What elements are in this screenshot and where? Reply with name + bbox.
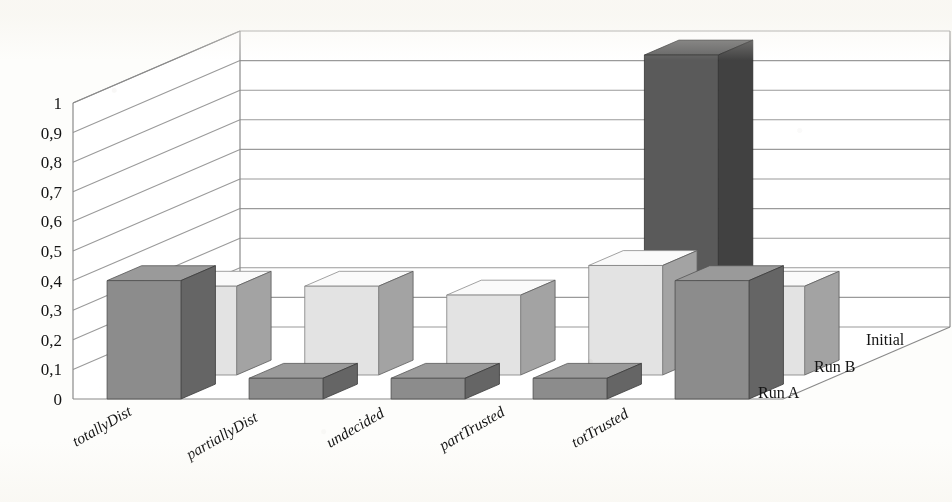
bar-front-face bbox=[391, 378, 465, 399]
bar-partiallyDist-RunB[interactable] bbox=[305, 271, 413, 375]
y-tick-label: 0,6 bbox=[41, 212, 62, 231]
bar-side-face bbox=[379, 271, 414, 375]
bar-side-face bbox=[749, 266, 784, 399]
bar-undecided-RunB[interactable] bbox=[447, 280, 555, 375]
y-tick-label: 0,3 bbox=[41, 301, 62, 320]
bar-front-face bbox=[107, 281, 181, 399]
y-tick-label: 0,9 bbox=[41, 124, 62, 143]
series-label-initial: Initial bbox=[866, 331, 905, 348]
bar-side-face bbox=[181, 266, 216, 399]
bar-totallyDist-RunA[interactable] bbox=[107, 266, 215, 399]
bar-front-face bbox=[305, 286, 379, 375]
y-tick-label: 0,1 bbox=[41, 360, 62, 379]
bar-front-face bbox=[533, 378, 607, 399]
series-label-run-b: Run B bbox=[814, 358, 855, 375]
bar-side-face bbox=[237, 271, 272, 375]
series-label-run-a: Run A bbox=[758, 384, 800, 401]
category-label: totallyDist bbox=[69, 402, 135, 450]
category-label: undecided bbox=[323, 404, 387, 451]
y-tick-label: 0,4 bbox=[41, 272, 63, 291]
y-axis-tick-labels: 1 0,9 0,8 0,7 0,6 0,5 0,4 0,3 0,2 0,1 0 bbox=[41, 94, 63, 409]
y-tick-label: 1 bbox=[54, 94, 63, 113]
category-label: partTrusted bbox=[435, 403, 507, 455]
y-tick-label: 0,8 bbox=[41, 153, 62, 172]
x-axis-category-labels: totallyDist partiallyDist undecided part… bbox=[69, 402, 631, 463]
y-tick-label: 0,2 bbox=[41, 331, 62, 350]
bar-front-face bbox=[249, 378, 323, 399]
chart-canvas: 1 0,9 0,8 0,7 0,6 0,5 0,4 0,3 0,2 0,1 0 … bbox=[0, 0, 952, 502]
bar-totTrusted-RunA[interactable] bbox=[675, 266, 783, 399]
y-tick-label: 0,5 bbox=[41, 242, 62, 261]
bar-front-face bbox=[675, 281, 749, 399]
category-label: partiallyDist bbox=[182, 408, 261, 463]
three-d-bar-chart: 1 0,9 0,8 0,7 0,6 0,5 0,4 0,3 0,2 0,1 0 … bbox=[0, 0, 952, 502]
y-tick-label: 0,7 bbox=[41, 183, 63, 202]
bar-side-face bbox=[521, 280, 556, 375]
category-label: totTrusted bbox=[568, 404, 631, 450]
y-tick-label: 0 bbox=[54, 390, 63, 409]
bar-front-face bbox=[589, 265, 663, 375]
